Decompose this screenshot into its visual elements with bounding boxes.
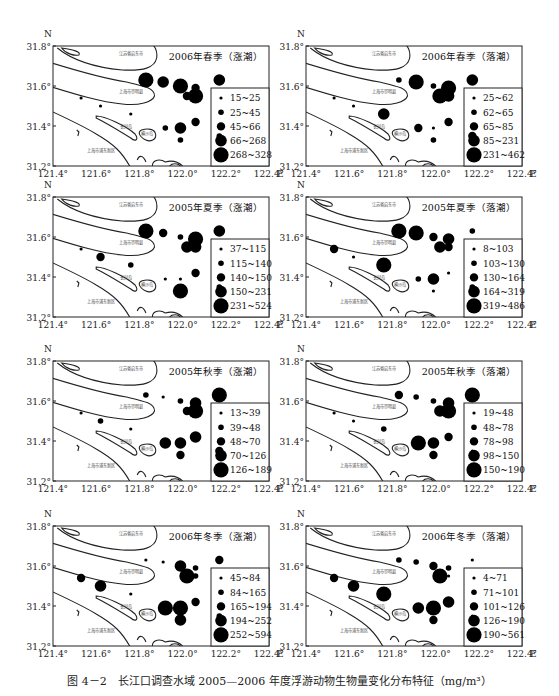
label-changxing: 长兴岛 bbox=[373, 274, 385, 281]
station-marker bbox=[391, 223, 406, 238]
label-qidong: 江苏省启东市 bbox=[119, 530, 143, 537]
x-tick-label: 122.0° bbox=[167, 649, 197, 659]
y-tick-label: 31.4° bbox=[26, 602, 51, 612]
panel-title: 2006年春季（涨潮） bbox=[169, 51, 263, 62]
map-panel-winter-ebb: N江苏省启东市上海市崇明县长兴岛横沙岛上海市浦东新区2006年冬季（落潮）4~7… bbox=[279, 492, 558, 657]
station-marker bbox=[471, 449, 474, 452]
station-marker bbox=[426, 600, 441, 615]
y-tick-label: 31.6° bbox=[279, 233, 304, 243]
y-tick-label: 31.6° bbox=[26, 233, 51, 243]
north-axis-label: N bbox=[44, 344, 52, 354]
label-hengsha: 横沙岛 bbox=[141, 130, 153, 137]
station-marker bbox=[428, 437, 440, 449]
legend-entry: 37~115 bbox=[230, 244, 266, 254]
legend-entry: 130~164 bbox=[483, 273, 525, 283]
panel-title: 2006年春季（落潮） bbox=[422, 51, 516, 62]
station-marker bbox=[178, 137, 184, 143]
station-marker bbox=[414, 124, 422, 132]
label-pudong: 上海市浦东新区 bbox=[87, 298, 115, 305]
station-marker bbox=[129, 592, 132, 595]
station-marker bbox=[95, 580, 107, 592]
station-points bbox=[79, 387, 226, 459]
y-tick-label: 31.4° bbox=[279, 437, 304, 447]
station-marker bbox=[444, 243, 452, 251]
label-changxing: 长兴岛 bbox=[373, 123, 385, 130]
station-points bbox=[79, 223, 225, 298]
label-qidong: 江苏省启东市 bbox=[372, 50, 396, 57]
legend-entry: 165~194 bbox=[230, 602, 272, 612]
map-svg: N江苏省启东市上海市崇明县长兴岛横沙岛上海市浦东新区2006年冬季（落潮）4~7… bbox=[279, 492, 558, 662]
panel-title: 2005年秋季（涨潮） bbox=[169, 366, 263, 377]
y-tick-label: 31.6° bbox=[26, 562, 51, 572]
station-marker bbox=[129, 427, 132, 430]
label-pudong: 上海市浦东新区 bbox=[340, 147, 368, 154]
legend-entry: 126~189 bbox=[230, 465, 272, 475]
station-marker bbox=[143, 392, 149, 398]
legend-entry: 231~524 bbox=[230, 301, 272, 311]
label-qidong: 江苏省启东市 bbox=[119, 365, 143, 372]
station-marker bbox=[352, 255, 355, 258]
legend-entry: 48~70 bbox=[230, 437, 261, 447]
station-marker bbox=[212, 387, 227, 402]
label-hengsha: 横沙岛 bbox=[141, 610, 153, 617]
station-marker bbox=[348, 580, 360, 592]
station-marker bbox=[138, 223, 153, 238]
coastline-group bbox=[49, 357, 183, 483]
legend-entry: 150~190 bbox=[483, 465, 525, 475]
legend-entry: 78~98 bbox=[483, 437, 514, 447]
legend: 37~115115~140140~150150~231231~524 bbox=[211, 239, 272, 317]
legend-entry: 45~84 bbox=[230, 573, 261, 583]
station-marker bbox=[96, 253, 104, 261]
legend-entry: 70~126 bbox=[230, 451, 266, 461]
north-axis-label: N bbox=[44, 29, 52, 39]
station-marker bbox=[163, 125, 169, 131]
station-marker bbox=[413, 394, 419, 400]
station-marker bbox=[157, 76, 169, 88]
station-marker bbox=[352, 419, 355, 422]
legend-entry: 65~85 bbox=[483, 122, 514, 132]
x-tick-label: 122.2° bbox=[464, 649, 494, 659]
legend-entry: 62~65 bbox=[483, 108, 514, 118]
legend-entry: 126~190 bbox=[483, 616, 525, 626]
coastline-group bbox=[49, 522, 183, 648]
panel-title: 2005年夏季（落潮） bbox=[422, 202, 516, 213]
label-chongming: 上海市崇明县 bbox=[372, 403, 396, 410]
station-marker bbox=[217, 284, 223, 290]
legend-entry: 85~231 bbox=[483, 136, 519, 146]
map-svg: N江苏省启东市上海市崇明县长兴岛横沙岛上海市浦东新区2005年夏季（涨潮）37~… bbox=[0, 163, 279, 333]
station-marker bbox=[413, 559, 419, 565]
station-marker bbox=[79, 96, 82, 99]
station-marker bbox=[411, 435, 426, 450]
legend-entry: 190~561 bbox=[483, 630, 525, 640]
station-marker bbox=[193, 573, 199, 579]
label-changxing: 长兴岛 bbox=[373, 603, 385, 610]
station-points bbox=[332, 387, 479, 459]
station-marker bbox=[432, 568, 447, 583]
station-marker bbox=[465, 387, 480, 402]
coastline-group bbox=[49, 42, 183, 168]
station-marker bbox=[431, 398, 437, 404]
station-marker bbox=[215, 556, 223, 564]
legend-entry: 231~462 bbox=[483, 150, 525, 160]
label-hengsha: 横沙岛 bbox=[141, 281, 153, 288]
map-panel-spring-flood: N江苏省启东市上海市崇明县长兴岛横沙岛上海市浦东新区2006年春季（涨潮）15~… bbox=[0, 0, 279, 165]
station-marker bbox=[79, 247, 82, 250]
legend-entry: 150~231 bbox=[230, 287, 272, 297]
y-tick-label: 31.6° bbox=[279, 562, 304, 572]
station-marker bbox=[178, 234, 184, 240]
y-tick-label: 31.6° bbox=[26, 397, 51, 407]
coastline-group bbox=[49, 193, 183, 319]
station-marker bbox=[191, 598, 199, 606]
legend: 8~103103~130130~164164~319319~486 bbox=[464, 239, 525, 317]
legend: 19~4848~7878~9898~150150~190 bbox=[464, 403, 525, 481]
label-pudong: 上海市浦东新区 bbox=[87, 462, 115, 469]
y-tick-label: 31.8° bbox=[279, 357, 304, 367]
station-marker bbox=[432, 126, 435, 129]
label-chongming: 上海市崇明县 bbox=[372, 568, 396, 575]
station-marker bbox=[79, 411, 82, 414]
station-marker bbox=[378, 108, 390, 120]
legend-entry: 101~126 bbox=[483, 602, 525, 612]
legend: 15~2525~4545~6666~268268~328 bbox=[211, 88, 272, 166]
station-marker bbox=[432, 289, 435, 292]
map-panel-autumn-ebb: N江苏省启东市上海市崇明县长兴岛横沙岛上海市浦东新区2005年秋季（落潮）19~… bbox=[279, 327, 558, 492]
